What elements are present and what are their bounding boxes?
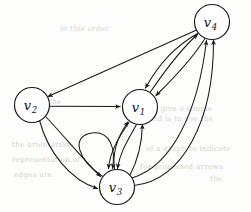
node-v2[interactable]: v2 xyxy=(15,88,50,123)
graph-figure: in this orderbility in theto give a simp… xyxy=(0,0,251,212)
node-v4[interactable]: v4 xyxy=(195,5,230,40)
edge-v2-to-v3-inner xyxy=(46,117,101,177)
edge-v3-self-loop xyxy=(79,133,113,176)
node-v1[interactable]: v1 xyxy=(123,90,158,125)
edge-v3-to-v1-a xyxy=(114,122,128,170)
edge-v1-to-v4 xyxy=(150,35,198,93)
edge-v4-to-v2 xyxy=(48,31,196,97)
edge-v1-to-v3-b xyxy=(118,125,137,169)
node-v3[interactable]: v3 xyxy=(100,170,135,205)
directed-graph-canvas: v1v2v3v4 xyxy=(0,0,251,212)
edge-v2-to-v3-outer xyxy=(40,121,98,189)
node-subscript-v1: 1 xyxy=(140,107,145,117)
node-subscript-v2: 2 xyxy=(31,105,37,115)
node-subscript-v3: 3 xyxy=(117,187,123,197)
node-subscript-v4: 4 xyxy=(211,22,217,32)
